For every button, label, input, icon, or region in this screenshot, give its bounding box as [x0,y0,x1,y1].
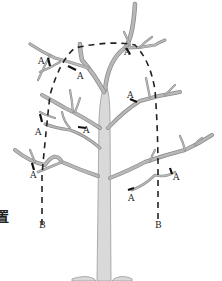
label-a4: A [126,90,134,100]
label-a7: A [29,170,37,180]
label-a2: A [76,71,84,81]
label-b-right: B [155,220,162,230]
label-b-left: B [39,220,46,230]
label-a5: A [34,127,42,137]
label-a6: A [82,125,90,135]
label-a8: A [127,193,135,203]
label-a1: A [37,56,45,66]
tree-branches [15,4,212,190]
label-a3: A [123,47,131,57]
label-a9: A [172,172,180,182]
tree-pruning-diagram: A A A A A A A A A B B [0,0,222,281]
